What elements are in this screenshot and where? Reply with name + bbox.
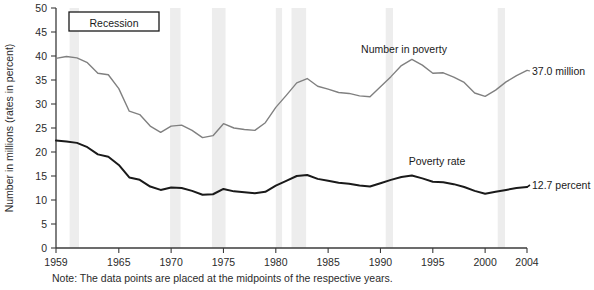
end-label-number-in-poverty: 37.0 million: [532, 65, 585, 77]
series-label-number-in-poverty: Number in poverty: [361, 43, 448, 55]
recession-band: [212, 8, 226, 248]
poverty-chart: 05101520253035404550 1959196519701975198…: [0, 0, 594, 290]
y-axis-ticks: 05101520253035404550: [35, 2, 56, 254]
recession-band: [498, 8, 505, 248]
x-axis-tick-label: 1980: [264, 256, 288, 268]
y-axis-tick-label: 5: [41, 218, 47, 230]
y-axis-tick-label: 15: [35, 170, 47, 182]
recession-band: [276, 8, 282, 248]
y-axis-tick-label: 30: [35, 98, 47, 110]
y-axis-tick-label: 25: [35, 122, 47, 134]
x-axis-tick-label: 1970: [159, 256, 183, 268]
x-axis-tick-label: 1990: [369, 256, 393, 268]
series-annotations: Number in poverty Poverty rate 37.0 mill…: [361, 43, 590, 191]
x-axis-tick-label: 1959: [44, 256, 68, 268]
y-axis-tick-label: 20: [35, 146, 47, 158]
y-axis-tick-label: 40: [35, 50, 47, 62]
y-axis-tick-label: 50: [35, 2, 47, 14]
y-axis-tick-label: 10: [35, 194, 47, 206]
x-axis-tick-label: 2004: [515, 256, 539, 268]
x-axis-tick-label: 1995: [421, 256, 445, 268]
recession-legend-label: Recession: [89, 17, 138, 29]
x-axis-tick-label: 1965: [107, 256, 131, 268]
series-label-poverty-rate: Poverty rate: [409, 155, 466, 167]
y-axis-tick-label: 45: [35, 26, 47, 38]
x-axis-tick-label: 2000: [473, 256, 497, 268]
recession-legend: Recession: [69, 12, 159, 31]
chart-note: Note: The data points are placed at the …: [52, 272, 393, 284]
x-axis-ticks: 1959196519701975198019851990199520002004: [44, 248, 539, 268]
x-axis-tick-label: 1975: [212, 256, 236, 268]
y-axis-tick-label: 35: [35, 74, 47, 86]
end-label-poverty-rate: 12.7 percent: [532, 179, 590, 191]
end-label-leader-line: [527, 70, 530, 71]
chart-canvas: 05101520253035404550 1959196519701975198…: [0, 0, 594, 290]
recession-band: [170, 8, 180, 248]
recession-band: [70, 8, 79, 248]
y-axis-title: Number in millions (rates in percent): [3, 44, 15, 213]
recession-band: [292, 8, 307, 248]
y-axis-tick-label: 0: [41, 242, 47, 254]
x-axis-tick-label: 1985: [316, 256, 340, 268]
end-label-leader-line: [527, 185, 530, 187]
